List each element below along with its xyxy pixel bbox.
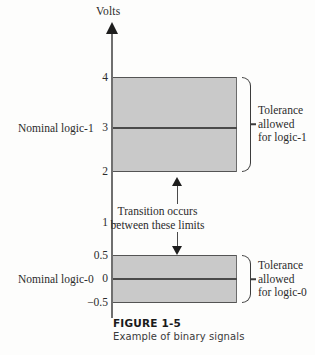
transition-line-2: between these limits [0, 218, 315, 232]
bracket-logic-0-nub [250, 278, 256, 280]
transition-arrow-line-upper [177, 186, 178, 204]
figure-caption-subtitle: Example of binary signals [113, 330, 244, 344]
tolerance-logic-1-line-1: Tolerance [258, 104, 307, 118]
tolerance-logic-1-line-3: for logic-1 [258, 131, 307, 145]
tolerance-logic-1-line-2: allowed [258, 117, 307, 131]
bracket-logic-1-nub [250, 123, 256, 125]
tolerance-logic-0-line-1: Tolerance [258, 259, 307, 273]
transition-line-1: Transition occurs [0, 204, 315, 218]
tick-label-3: 3 [102, 122, 108, 134]
nominal-line-logic-1 [113, 127, 237, 129]
label-tolerance-logic-1: Tolerance allowed for logic-1 [258, 104, 307, 145]
label-nominal-logic-0: Nominal logic-0 [18, 273, 94, 285]
axis-title-volts: Volts [96, 5, 120, 17]
tick-label-1: 1 [102, 217, 108, 229]
annotation-transition: Transition occurs between these limits [0, 204, 315, 232]
tick-label-0point5: 0.5 [94, 250, 108, 262]
tick-label-4: 4 [102, 72, 108, 84]
nominal-line-logic-0 [113, 278, 237, 280]
tick-label-minus-0point5: −0.5 [87, 297, 108, 309]
band-logic-1 [113, 77, 237, 172]
axis-arrow-icon [106, 22, 118, 34]
transition-arrow-down-icon [172, 246, 182, 255]
transition-arrow-up-icon [172, 177, 182, 186]
figure-binary-signals: Volts 4 3 2 1 0.5 0 −0.5 Nominal logic-1… [0, 0, 315, 355]
band-logic-1-right-edge [236, 77, 237, 172]
label-tolerance-logic-0: Tolerance allowed for logic-0 [258, 259, 307, 300]
tolerance-logic-0-line-2: allowed [258, 272, 307, 286]
tick-mark-1 [113, 223, 120, 224]
tick-label-2: 2 [102, 166, 108, 178]
figure-caption: FIGURE 1-5 Example of binary signals [113, 316, 244, 344]
tick-label-0: 0 [102, 273, 108, 285]
label-nominal-logic-1: Nominal logic-1 [18, 122, 94, 134]
tolerance-logic-0-line-3: for logic-0 [258, 286, 307, 300]
figure-caption-title: FIGURE 1-5 [113, 316, 244, 330]
